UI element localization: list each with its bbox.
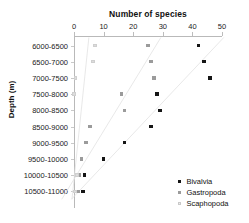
data-point-bivalvia: [158, 109, 162, 113]
chart-legend: BivalviaGastropodaScaphopoda: [178, 176, 229, 209]
data-point-gastropoda: [146, 44, 150, 48]
data-point-gastropoda: [120, 92, 124, 96]
data-point-bivalvia: [102, 157, 106, 161]
legend-marker-icon: [178, 180, 181, 183]
data-point-scaphopoda: [91, 60, 95, 64]
legend-item-label: Bivalvia: [186, 177, 212, 186]
legend-item-label: Scaphopoda: [186, 199, 228, 208]
data-point-gastropoda: [84, 141, 88, 145]
data-point-scaphopoda: [72, 92, 76, 96]
legend-marker-icon: [178, 202, 181, 205]
data-point-bivalvia: [155, 92, 159, 96]
data-point-bivalvia: [149, 125, 153, 129]
legend-item-scaphopoda[interactable]: Scaphopoda: [178, 198, 229, 209]
data-point-gastropoda: [123, 109, 127, 113]
data-point-bivalvia: [123, 141, 127, 145]
data-point-gastropoda: [149, 60, 153, 64]
data-point-scaphopoda: [73, 190, 77, 194]
data-point-scaphopoda: [75, 173, 79, 177]
data-point-bivalvia: [83, 173, 87, 177]
species-depth-scatter-chart: Number of species Depth (m) 01020304050 …: [0, 0, 249, 223]
data-point-gastropoda: [80, 157, 84, 161]
legend-marker-icon: [178, 191, 181, 194]
data-point-bivalvia: [202, 60, 206, 64]
data-point-bivalvia: [208, 76, 212, 80]
legend-item-label: Gastropoda: [186, 188, 225, 197]
legend-item-bivalvia[interactable]: Bivalvia: [178, 176, 229, 187]
data-point-scaphopoda: [93, 44, 97, 48]
data-point-bivalvia: [197, 44, 201, 48]
legend-item-gastropoda[interactable]: Gastropoda: [178, 187, 229, 198]
data-point-scaphopoda: [74, 76, 78, 80]
data-point-gastropoda: [88, 125, 92, 129]
data-point-bivalvia: [81, 190, 85, 194]
data-point-gastropoda: [152, 76, 156, 80]
